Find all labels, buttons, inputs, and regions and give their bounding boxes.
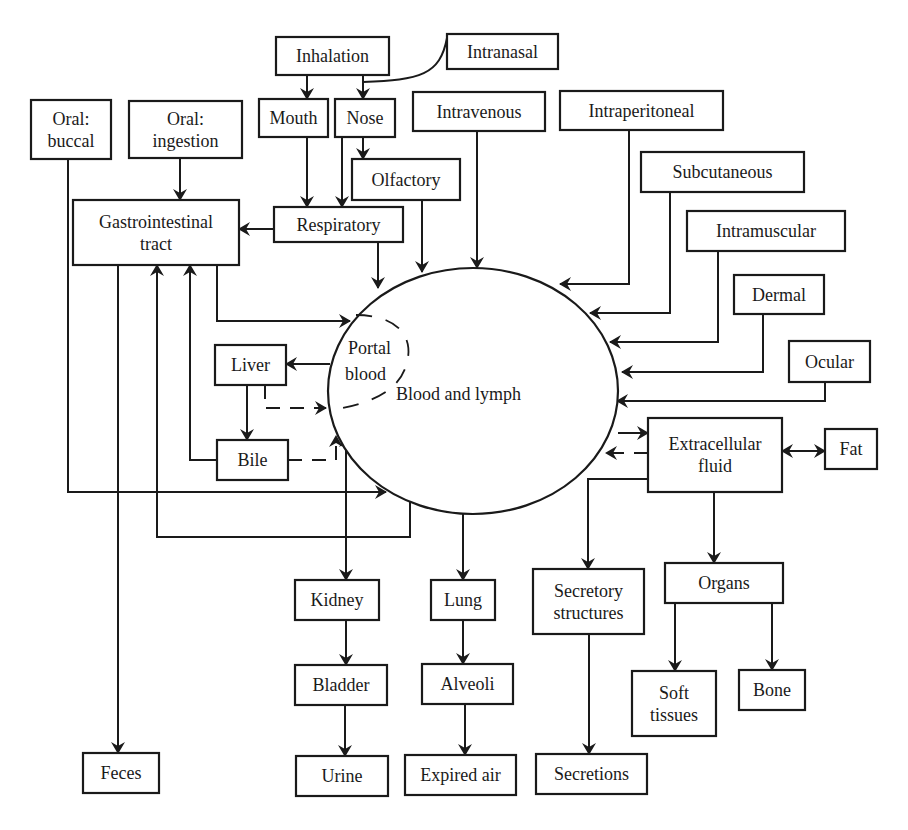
node-label: Inhalation (296, 46, 369, 66)
node-bladder: Bladder (295, 665, 387, 705)
node-label: tissues (650, 705, 698, 725)
absorption-distribution-diagram: Portal blood Blood and lymph InhalationI… (0, 0, 908, 830)
node-label: Expired air (420, 765, 500, 785)
node-dermal: Dermal (734, 275, 824, 314)
node-liver: Liver (215, 345, 286, 385)
node-kidney: Kidney (295, 580, 379, 620)
node-label: Bone (753, 680, 791, 700)
node-label: Intravenous (437, 102, 522, 122)
node-label: Secretory (554, 581, 623, 601)
node-intranasal: Intranasal (447, 34, 558, 69)
node-oral-buccal: Oral:buccal (31, 100, 111, 159)
edge-bile-to-blood (288, 436, 336, 460)
node-urine: Urine (296, 756, 388, 796)
node-fat: Fat (825, 429, 877, 469)
edge-liver-to-blood (265, 385, 326, 408)
node-extracellular-fluid: Extracellularfluid (648, 418, 782, 492)
node-label: Subcutaneous (673, 162, 773, 182)
node-inhalation: Inhalation (276, 37, 389, 75)
node-nose: Nose (335, 99, 395, 137)
node-label: Nose (347, 108, 384, 128)
node-label: Liver (231, 355, 270, 375)
node-label: Oral: (53, 109, 90, 129)
node-organs: Organs (665, 563, 783, 603)
node-box (533, 569, 644, 634)
node-secretions: Secretions (536, 754, 647, 794)
node-subcutaneous: Subcutaneous (641, 152, 804, 192)
node-bile: Bile (217, 440, 288, 480)
node-ocular: Ocular (789, 341, 870, 382)
node-label: buccal (48, 131, 95, 151)
edge-extracellular-fluid-to-secretory-structures (588, 479, 648, 569)
node-label: Mouth (269, 108, 317, 128)
node-label: Extracellular (669, 434, 762, 454)
node-gi-tract: Gastrointestinaltract (73, 200, 239, 265)
node-secretory-structures: Secretorystructures (533, 569, 644, 634)
node-label: Gastrointestinal (99, 212, 213, 232)
portal-blood-label-line1: Portal (348, 338, 391, 358)
node-lung: Lung (431, 580, 495, 620)
node-label: Ocular (805, 352, 854, 372)
node-label: tract (140, 234, 172, 254)
node-respiratory: Respiratory (274, 207, 403, 242)
node-box (632, 671, 716, 736)
node-label: Urine (322, 766, 363, 786)
node-label: Secretions (554, 764, 629, 784)
node-feces: Feces (83, 753, 159, 793)
node-box (648, 418, 782, 492)
node-intravenous: Intravenous (413, 92, 545, 131)
node-label: Bile (238, 450, 268, 470)
node-label: Lung (444, 590, 482, 610)
node-expired-air: Expired air (405, 755, 516, 795)
node-intraperitoneal: Intraperitoneal (560, 91, 723, 130)
node-label: Soft (659, 683, 689, 703)
blood-and-lymph-label: Blood and lymph (396, 384, 521, 404)
node-label: Intraperitoneal (589, 101, 695, 121)
node-bone: Bone (739, 670, 805, 710)
node-label: Oral: (167, 109, 204, 129)
edge-intramuscular-to-blood (610, 251, 718, 342)
node-label: Kidney (311, 590, 364, 610)
node-label: Respiratory (297, 215, 381, 235)
node-label: Bladder (313, 675, 370, 695)
node-box (73, 200, 239, 265)
node-intramuscular: Intramuscular (687, 211, 845, 251)
node-label: Fat (839, 439, 862, 459)
node-oral-ingestion: Oral:ingestion (129, 101, 242, 158)
node-soft-tissues: Softtissues (632, 671, 716, 736)
node-mouth: Mouth (259, 99, 328, 137)
edge-ocular-to-blood (617, 382, 825, 401)
node-olfactory: Olfactory (352, 159, 460, 200)
node-label: Dermal (752, 285, 806, 305)
node-label: Alveoli (441, 674, 495, 694)
node-label: Olfactory (372, 170, 441, 190)
node-label: structures (554, 603, 624, 623)
node-label: ingestion (153, 131, 219, 151)
node-alveoli: Alveoli (422, 664, 513, 704)
node-label: Intramuscular (716, 221, 816, 241)
node-label: Organs (698, 573, 750, 593)
blood-and-lymph-compartment: Portal blood Blood and lymph (328, 268, 618, 514)
node-label: Intranasal (467, 42, 538, 62)
edge-intraperitoneal-to-blood (560, 130, 629, 284)
edge-gi-tract-to-blood (217, 265, 350, 321)
node-label: Feces (101, 763, 142, 783)
portal-blood-label-line2: blood (345, 364, 386, 384)
edge-bile-to-gi-tract (190, 265, 217, 460)
node-label: fluid (698, 456, 732, 476)
